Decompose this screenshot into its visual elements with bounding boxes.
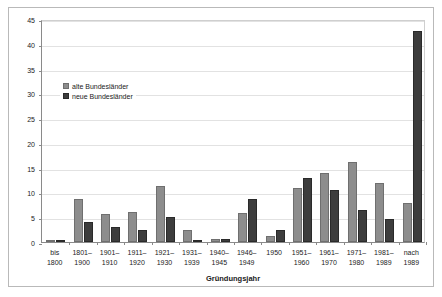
bar-neue-bundeslaender: [330, 190, 339, 242]
bar-alte-bundeslaender: [293, 188, 302, 242]
legend-swatch-icon-alte: [63, 83, 69, 89]
bar-group: [152, 21, 179, 242]
y-tick-label: 10: [11, 190, 35, 197]
y-tick-label: 15: [11, 165, 35, 172]
bar-group: [234, 21, 261, 242]
legend-swatch-icon-neue: [63, 93, 69, 99]
y-tick-label: 30: [11, 91, 35, 98]
bar-alte-bundeslaender: [74, 199, 83, 242]
bar-group: [399, 21, 426, 242]
x-tick-mark: [152, 242, 153, 245]
x-tick-label: 1981– 1989: [370, 248, 397, 267]
x-tick-label: 1911– 1920: [123, 248, 150, 267]
bar-neue-bundeslaender: [138, 230, 147, 242]
x-tick-mark: [426, 242, 427, 245]
bar-group: [69, 21, 96, 242]
bar-group: [124, 21, 151, 242]
bar-neue-bundeslaender: [56, 240, 65, 242]
bar-neue-bundeslaender: [385, 219, 394, 242]
x-tick-mark: [344, 242, 345, 245]
x-tick-label: bis 1800: [41, 248, 68, 267]
bar-group: [261, 21, 288, 242]
bar-group: [289, 21, 316, 242]
plot-area: [41, 20, 425, 243]
bar-alte-bundeslaender: [348, 162, 357, 242]
x-tick-label: 1801– 1900: [68, 248, 95, 267]
x-tick-label: 1921– 1930: [151, 248, 178, 267]
bar-group: [97, 21, 124, 242]
y-tick-label: 0: [11, 240, 35, 247]
bar-neue-bundeslaender: [358, 210, 367, 242]
bar-alte-bundeslaender: [156, 186, 165, 242]
y-tick-label: 5: [11, 215, 35, 222]
x-tick-mark: [261, 242, 262, 245]
y-tick-label: 45: [11, 17, 35, 24]
chart-figure: Anteil [%] 051015202530354045 bis 180018…: [0, 0, 442, 297]
x-tick-mark: [179, 242, 180, 245]
bar-alte-bundeslaender: [211, 239, 220, 242]
y-tick-label: 35: [11, 66, 35, 73]
x-tick-mark: [399, 242, 400, 245]
bar-group: [207, 21, 234, 242]
bar-group: [316, 21, 343, 242]
bar-neue-bundeslaender: [303, 178, 312, 242]
x-tick-mark: [234, 242, 235, 245]
x-tick-mark: [289, 242, 290, 245]
x-tick-label: 1931– 1939: [178, 248, 205, 267]
bar-neue-bundeslaender: [166, 217, 175, 242]
y-tick-label: 40: [11, 41, 35, 48]
bar-neue-bundeslaender: [276, 230, 285, 242]
y-tick-label: 20: [11, 140, 35, 147]
legend-item-alte: alte Bundesländer: [63, 81, 133, 91]
x-tick-mark: [124, 242, 125, 245]
legend-item-neue: neue Bundesländer: [63, 91, 133, 101]
y-tick-label: 25: [11, 116, 35, 123]
bar-group: [179, 21, 206, 242]
bar-group: [344, 21, 371, 242]
x-tick-mark: [316, 242, 317, 245]
x-tick-mark: [207, 242, 208, 245]
legend-label-neue: neue Bundesländer: [72, 93, 133, 100]
bar-alte-bundeslaender: [238, 213, 247, 242]
bar-neue-bundeslaender: [193, 240, 202, 242]
bar-group: [42, 21, 69, 242]
x-tick-label: 1950: [260, 248, 287, 258]
x-tick-label: 1946– 1949: [233, 248, 260, 267]
bar-neue-bundeslaender: [111, 227, 120, 242]
x-tick-mark: [371, 242, 372, 245]
bar-alte-bundeslaender: [183, 230, 192, 242]
bar-alte-bundeslaender: [101, 214, 110, 242]
x-tick-label: 1940– 1945: [206, 248, 233, 267]
bars-layer: [42, 21, 424, 242]
bar-alte-bundeslaender: [403, 203, 412, 242]
x-tick-mark: [69, 242, 70, 245]
x-tick-label: 1961– 1970: [315, 248, 342, 267]
bar-alte-bundeslaender: [128, 212, 137, 242]
bar-alte-bundeslaender: [46, 240, 55, 242]
bar-neue-bundeslaender: [248, 199, 257, 242]
chart-legend: alte Bundesländer neue Bundesländer: [60, 79, 136, 103]
bar-alte-bundeslaender: [266, 236, 275, 242]
y-tick-mark: [39, 244, 42, 245]
bar-alte-bundeslaender: [375, 183, 384, 242]
legend-label-alte: alte Bundesländer: [72, 83, 128, 90]
bar-neue-bundeslaender: [221, 239, 230, 242]
bar-neue-bundeslaender: [84, 222, 93, 242]
x-tick-mark: [97, 242, 98, 245]
bar-alte-bundeslaender: [320, 173, 329, 242]
x-tick-label: 1971– 1980: [343, 248, 370, 267]
x-tick-label: 1901– 1910: [96, 248, 123, 267]
bar-group: [371, 21, 398, 242]
x-tick-label: 1951– 1960: [288, 248, 315, 267]
x-axis-title: Gründungsjahr: [41, 274, 425, 283]
x-tick-label: nach 1989: [398, 248, 425, 267]
bar-neue-bundeslaender: [413, 31, 422, 242]
